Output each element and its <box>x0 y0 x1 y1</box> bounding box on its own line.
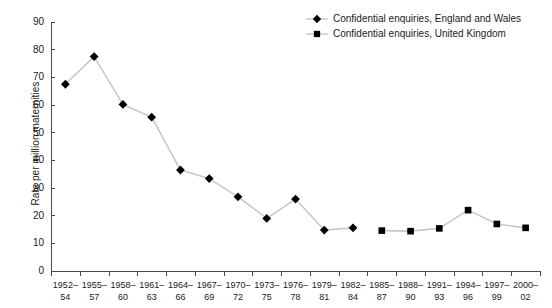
legend-item-2[interactable]: Confidential enquiries, United Kingdom <box>305 28 521 41</box>
data-point-1961-63 <box>147 113 156 122</box>
legend-label: Confidential enquiries, England and Wale… <box>333 13 521 26</box>
square-icon <box>305 28 329 40</box>
x-axis-label-line: 2000– <box>504 280 548 292</box>
data-point-1958-60 <box>119 100 128 109</box>
data-point-1982-84 <box>349 223 358 232</box>
data-point-1967-69 <box>205 174 214 183</box>
y-tick-label: 70 <box>33 70 44 83</box>
series-line-2 <box>382 210 526 231</box>
y-tick-label: 90 <box>33 15 44 28</box>
y-tick-label: 30 <box>33 181 44 194</box>
data-point-1997-99 <box>494 221 501 228</box>
legend-item-1[interactable]: Confidential enquiries, England and Wale… <box>305 13 521 26</box>
x-axis-label: 2000–02 <box>504 280 548 303</box>
series-layer <box>51 22 540 272</box>
legend-label: Confidential enquiries, United Kingdom <box>333 28 521 41</box>
x-axis-label-line: 02 <box>504 292 548 304</box>
x-tick-mark <box>540 271 541 276</box>
plot-area: 0102030405060708090 1952–541955–571958–6… <box>51 22 540 271</box>
data-point-2000-02 <box>522 225 529 232</box>
data-point-1985-87 <box>378 227 385 234</box>
y-tick-label: 20 <box>33 209 44 222</box>
y-tick-label: 10 <box>33 236 44 249</box>
y-tick-label: 0 <box>38 264 44 277</box>
diamond-icon <box>305 13 329 25</box>
y-axis-title: Rate per million maternities <box>30 24 41 264</box>
data-point-1991-93 <box>436 225 443 232</box>
y-tick-label: 50 <box>33 126 44 139</box>
data-point-1964-66 <box>176 166 185 175</box>
data-point-1994-96 <box>465 207 472 214</box>
y-tick-label: 60 <box>33 98 44 111</box>
series-line-1 <box>65 57 353 230</box>
y-tick-label: 40 <box>33 153 44 166</box>
chart-legend: Confidential enquiries, England and Wale… <box>305 13 521 42</box>
chart-container: Rate per million maternities 01020304050… <box>0 0 552 308</box>
data-point-1988-90 <box>407 228 414 235</box>
y-tick-label: 80 <box>33 43 44 56</box>
